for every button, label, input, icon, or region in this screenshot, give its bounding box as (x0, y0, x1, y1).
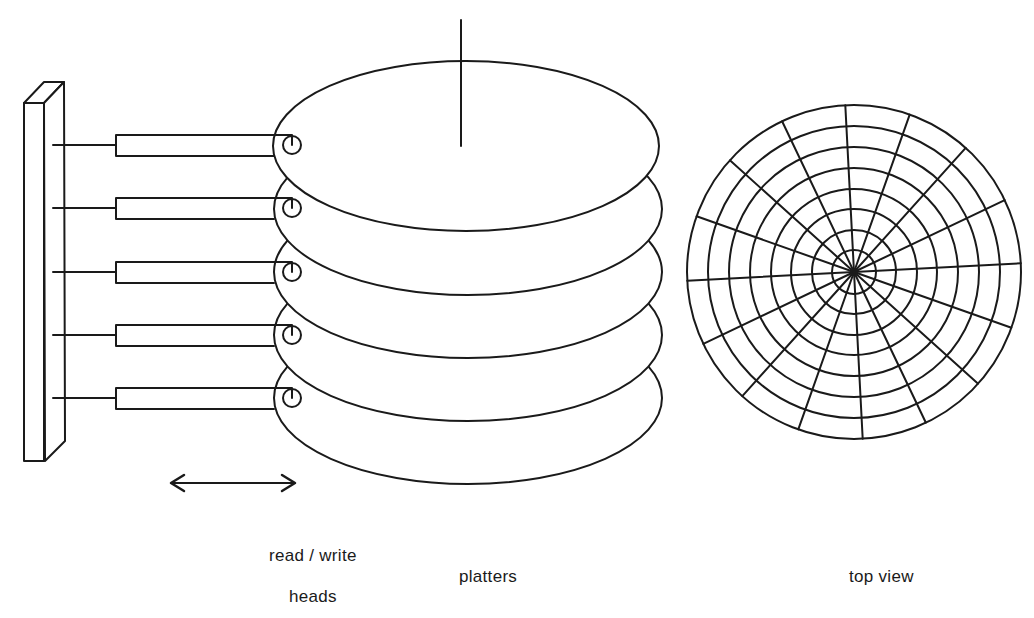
platter-stack (273, 20, 662, 484)
label-read-write: read / write (269, 546, 357, 566)
head-arm-4 (53, 325, 301, 346)
head-arm-3 (53, 262, 301, 283)
label-top-view: top view (849, 567, 914, 587)
label-heads: heads (289, 587, 337, 607)
platter-1 (273, 61, 659, 231)
head-arm-2 (53, 198, 301, 219)
head-arm-5 (53, 388, 301, 409)
double-arrow-icon (171, 475, 295, 491)
top-view-disc (687, 105, 1021, 439)
hdd-diagram (0, 0, 1034, 618)
head-arm-1 (53, 135, 301, 156)
head-assembly (53, 135, 301, 409)
label-platters: platters (459, 567, 517, 587)
